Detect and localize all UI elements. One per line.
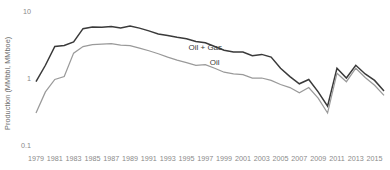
x-tick-label: 1987 — [103, 154, 119, 163]
y-tick-label: 1 — [27, 74, 31, 83]
series-label-oil: Oil — [210, 58, 220, 67]
x-tick-label: 2001 — [235, 154, 251, 163]
x-tick-label: 2003 — [254, 154, 270, 163]
y-tick-label: 0.1 — [21, 141, 31, 150]
x-tick-label: 2011 — [329, 154, 344, 163]
x-tick-label: 1991 — [141, 154, 157, 163]
x-tick-label: 2007 — [291, 154, 307, 163]
x-axis-ticks: 1979198119831985198719891991199319951997… — [28, 154, 383, 163]
x-tick-label: 2009 — [310, 154, 326, 163]
x-tick-label: 2015 — [367, 154, 383, 163]
x-tick-label: 1981 — [47, 154, 63, 163]
chart-figure: Production (MMbbl, MMboe) 1010.1 1979198… — [0, 0, 390, 170]
x-tick-label: 1983 — [66, 154, 82, 163]
x-tick-label: 1989 — [122, 154, 138, 163]
x-tick-label: 1997 — [197, 154, 213, 163]
x-tick-label: 1995 — [178, 154, 194, 163]
y-axis-title: Production (MMbbl, MMboe) — [3, 37, 12, 130]
production-line-chart: Production (MMbbl, MMboe) 1010.1 1979198… — [0, 0, 390, 170]
series-lines — [36, 26, 384, 113]
x-tick-label: 2013 — [348, 154, 364, 163]
y-axis-ticks: 1010.1 — [21, 7, 31, 150]
x-tick-label: 1993 — [160, 154, 176, 163]
series-line-oil — [36, 44, 384, 113]
y-tick-label: 10 — [23, 7, 31, 16]
x-tick-label: 2005 — [273, 154, 289, 163]
x-tick-label: 1985 — [84, 154, 100, 163]
x-tick-label: 1979 — [28, 154, 44, 163]
series-label-oil-gas: Oil + Gas — [189, 43, 223, 52]
series-annotations: Oil + GasOil — [189, 43, 223, 67]
x-tick-label: 1999 — [216, 154, 232, 163]
